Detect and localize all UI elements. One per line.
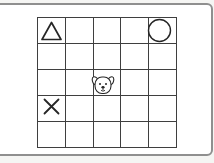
grid-cell	[38, 122, 65, 147]
grid-cell	[66, 96, 93, 121]
grid-cell	[94, 122, 121, 147]
grid-cell	[121, 18, 148, 43]
grid-cell	[121, 122, 148, 147]
grid-cell	[94, 70, 121, 95]
grid-cell	[66, 70, 93, 95]
grid-cell	[121, 96, 148, 121]
x-mark-icon	[42, 97, 61, 116]
grid-cell	[66, 18, 93, 43]
grid-cell	[149, 96, 176, 121]
grid-cell	[94, 44, 121, 69]
grid-cell	[66, 122, 93, 147]
grid-cell	[94, 96, 121, 121]
grid-cell	[149, 70, 176, 95]
grid-cell	[149, 122, 176, 147]
triangle-icon	[40, 20, 63, 42]
grid-cell	[38, 96, 65, 121]
grid-cell	[38, 18, 65, 43]
grid-board	[37, 17, 177, 148]
grid-cell	[66, 44, 93, 69]
grid-cell	[38, 70, 65, 95]
grid-cell	[38, 44, 65, 69]
screenshot-root	[0, 0, 214, 163]
grid-cell	[149, 44, 176, 69]
dog-face-icon	[90, 73, 116, 97]
circle-icon	[147, 18, 172, 43]
grid-cell	[94, 18, 121, 43]
grid-cell	[121, 70, 148, 95]
grid-cell	[121, 44, 148, 69]
grid-cell	[149, 18, 176, 43]
